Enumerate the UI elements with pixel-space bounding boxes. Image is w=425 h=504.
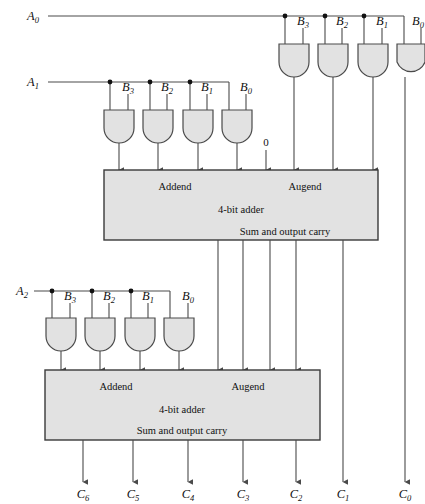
adder-1-output-label: Sum and output carry (240, 226, 331, 237)
adder-2-name-label: 4-bit adder (159, 404, 205, 415)
label-c3: C3 (237, 487, 250, 503)
and-gate-a0-b2 (318, 44, 348, 77)
gate-row-a0 (48, 14, 425, 77)
adder-2-addend-text: Addend (99, 381, 133, 392)
and-gate-a2-b0 (164, 318, 194, 351)
binary-multiplier-schematic: Addend 4-bit adder Sum and output carry … (0, 0, 425, 504)
label-c0: C0 (399, 487, 412, 503)
label-mask (105, 178, 377, 192)
and-gate-a2-b1 (125, 318, 155, 351)
and-gate-a1-b3 (104, 110, 134, 143)
adder-2-output-label: Sum and output carry (137, 425, 228, 436)
label-c6: C6 (77, 487, 90, 503)
adder-1-name-label: 4-bit adder (218, 204, 264, 215)
label-c4: C4 (182, 487, 195, 503)
junction-dot (188, 80, 193, 85)
label-c5: C5 (127, 487, 140, 503)
junction-dot (323, 14, 328, 19)
and-gate-a1-b1 (183, 110, 213, 143)
label-a0: A0 (26, 9, 40, 25)
and-gate-a1-b2 (143, 110, 173, 143)
junction-dot (362, 14, 367, 19)
label-a2: A2 (15, 284, 29, 300)
wires-a1-gates-to-adder1 (119, 143, 237, 170)
output-labels-c: C6 C5 C4 C3 C2 C1 C0 (77, 487, 412, 503)
junction-dot (129, 289, 134, 294)
circuit-diagram-canvas: Addend 4-bit adder Sum and output carry … (0, 0, 425, 504)
and-gate-a2-b2 (85, 318, 115, 351)
label-b0-row-a0: B0 (412, 14, 425, 30)
and-gate-a0-b3 (279, 44, 309, 77)
adder-1-augend-text: Augend (288, 181, 322, 192)
adder-2-augend-text: Augend (231, 381, 265, 392)
and-gate-a2-b3 (46, 318, 76, 351)
and-gate-a0-b1 (358, 44, 388, 77)
adder-2-group: Addend Augend 4-bit adder Sum and output… (45, 370, 320, 440)
adder1-outputs (218, 240, 343, 482)
and-gate-a0-b0 (397, 44, 425, 72)
adder-1-inner-labels: Addend Augend (105, 178, 377, 192)
label-b0-row-a2: B0 (182, 289, 195, 305)
adder-1-addend-text: Addend (158, 181, 192, 192)
junction-dot (108, 80, 113, 85)
junction-dot (90, 289, 95, 294)
carry-in-zero-label: 0 (263, 136, 269, 148)
wires-a2-gates-to-adder2 (61, 351, 179, 370)
and-gate-a1-b0 (222, 110, 252, 143)
adder2-outputs (83, 440, 296, 482)
label-b0-row-a1: B0 (240, 80, 253, 96)
label-c2: C2 (290, 487, 303, 503)
gate-row-a1 (48, 80, 252, 143)
junction-dot (283, 14, 288, 19)
label-c1: C1 (337, 487, 350, 503)
junction-dot (50, 289, 55, 294)
input-labels-a: A0 A1 A2 (15, 9, 40, 300)
label-a1: A1 (26, 75, 39, 91)
junction-dot (148, 80, 153, 85)
